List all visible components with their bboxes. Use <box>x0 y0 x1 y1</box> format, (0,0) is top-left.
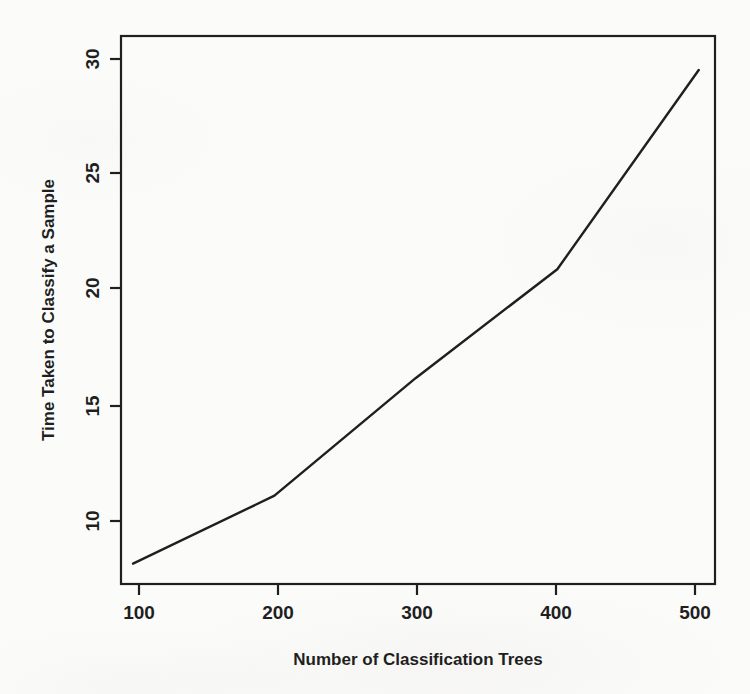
line-chart: 10 15 20 25 30 Time Taken to Classify a … <box>0 0 750 694</box>
x-tick-label-200: 200 <box>262 602 294 623</box>
y-tick-label-25: 25 <box>82 162 103 184</box>
x-tick-label-400: 400 <box>540 602 572 623</box>
y-tick-label-20: 20 <box>82 277 103 298</box>
x-tick-label-100: 100 <box>123 602 155 623</box>
x-axis-title: Number of Classification Trees <box>293 650 542 669</box>
data-series-line <box>133 70 699 564</box>
x-axis-tick-labels: 100 200 300 400 500 <box>123 602 711 623</box>
y-tick-label-30: 30 <box>82 48 103 69</box>
y-axis-title: Time Taken to Classify a Sample <box>39 179 58 441</box>
plot-frame-box <box>121 36 715 584</box>
y-tick-label-10: 10 <box>82 510 103 531</box>
x-axis-ticks <box>139 584 695 595</box>
y-axis-tick-labels: 10 15 20 25 30 <box>82 48 103 531</box>
y-tick-label-15: 15 <box>82 395 103 417</box>
chart-page: 10 15 20 25 30 Time Taken to Classify a … <box>0 0 750 694</box>
x-tick-label-300: 300 <box>401 602 433 623</box>
x-tick-label-500: 500 <box>679 602 711 623</box>
y-axis-ticks <box>110 59 121 521</box>
